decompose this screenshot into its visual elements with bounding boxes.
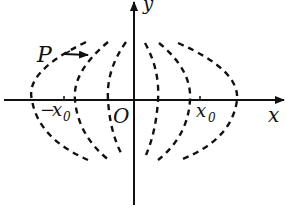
tick-label-pos-x0: x 0 <box>196 100 216 125</box>
p-arrow <box>64 54 88 55</box>
curve-right-outer <box>178 43 237 160</box>
svg-text:0: 0 <box>208 111 216 125</box>
origin-label: O <box>113 104 129 128</box>
svg-text:x: x <box>196 100 206 121</box>
y-axis-label: y <box>142 0 154 14</box>
svg-text:x: x <box>52 99 62 120</box>
tick-label-neg-x0: − x 0 <box>40 99 71 124</box>
curve-right-middle <box>158 43 190 160</box>
svg-text:0: 0 <box>63 110 71 124</box>
point-label-p: P <box>36 42 53 67</box>
curve-left-inner <box>108 42 126 155</box>
curve-left-middle <box>75 42 110 161</box>
x-axis-label: x <box>268 103 279 127</box>
diagram-canvas: P y x O − x 0 x 0 <box>0 0 295 220</box>
